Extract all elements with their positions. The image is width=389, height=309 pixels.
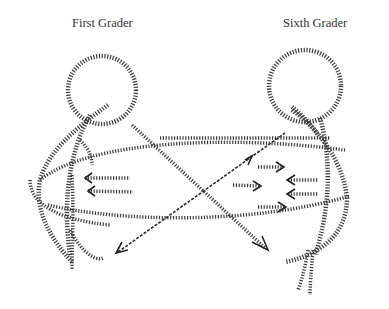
sixth-grader-head <box>269 50 341 122</box>
first-grader-head <box>68 56 136 124</box>
right-arrow-1-head <box>276 162 284 172</box>
arrow-sixth-direction <box>118 133 285 252</box>
right-arrow-2-head <box>253 181 261 191</box>
sixth-grader-figure <box>269 50 347 295</box>
sixth-grader-leg-2 <box>310 250 313 295</box>
first-grader-leg-2 <box>70 230 103 259</box>
right-arrow-2 <box>233 185 260 186</box>
first-grader-figure <box>39 56 136 270</box>
right-arrow-3-head <box>278 202 286 212</box>
first-grader-hand <box>80 140 92 165</box>
diagram-canvas <box>0 0 389 309</box>
sixth-grader-arm-right <box>285 110 347 262</box>
left-arrow-2 <box>88 191 133 192</box>
left-outer-loop <box>30 180 110 225</box>
upper-loop <box>40 142 345 180</box>
first-grader-leg-1 <box>72 175 73 270</box>
lower-loop <box>48 196 350 218</box>
arrow-head-mid <box>245 156 252 165</box>
arrow-head-bottom-left <box>116 242 128 253</box>
